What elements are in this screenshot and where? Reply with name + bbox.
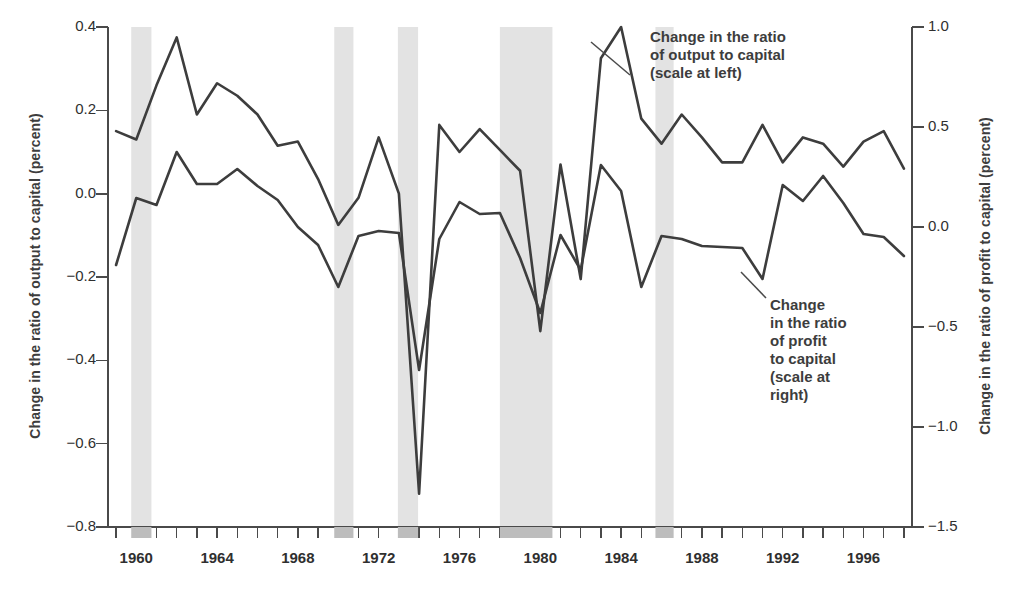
recession-band-1 [334, 27, 353, 527]
annotation-profit: Change in the ratio of profit to capital… [770, 296, 847, 404]
recession-band-4 [655, 27, 673, 527]
x-axis-band-stub-3 [500, 527, 553, 538]
y-tick-label-right-5: −1.5 [928, 517, 988, 534]
leader-line-0 [591, 42, 630, 75]
y-tick-label-left-6: −0.8 [28, 517, 96, 534]
x-tick-label-1960: 1960 [96, 549, 176, 566]
x-axis-band-stub-1 [334, 527, 353, 538]
x-tick-label-1992: 1992 [743, 549, 823, 566]
y-tick-label-right-1: 0.5 [928, 117, 988, 134]
x-axis-band-stub-4 [655, 527, 673, 538]
chart-container: Change in the ratio of output to capital… [0, 0, 1016, 593]
x-tick-label-1972: 1972 [339, 549, 419, 566]
y-tick-label-right-0: 1.0 [928, 17, 988, 34]
plot-svg [0, 0, 1016, 593]
x-tick-label-1988: 1988 [662, 549, 742, 566]
y-tick-label-left-3: −0.2 [28, 267, 96, 284]
recession-bands-layer [131, 27, 673, 527]
y-tick-label-left-0: 0.4 [28, 17, 96, 34]
y-tick-label-right-3: −0.5 [928, 317, 988, 334]
x-tick-label-1976: 1976 [419, 549, 499, 566]
y-tick-label-right-2: 0.0 [928, 217, 988, 234]
y-tick-label-left-4: −0.4 [28, 350, 96, 367]
x-tick-label-1980: 1980 [500, 549, 580, 566]
x-axis-band-stub-0 [131, 527, 151, 538]
x-tick-label-1964: 1964 [177, 549, 257, 566]
x-tick-label-1996: 1996 [824, 549, 904, 566]
x-tick-label-1968: 1968 [258, 549, 338, 566]
y-tick-label-left-5: −0.6 [28, 434, 96, 451]
annotation-output: Change in the ratio of output to capital… [650, 28, 786, 82]
x-axis-band-stub-2 [398, 527, 418, 538]
y-tick-label-left-1: 0.2 [28, 100, 96, 117]
y-tick-label-right-4: −1.0 [928, 417, 988, 434]
recession-band-0 [131, 27, 151, 527]
y-tick-label-left-2: 0.0 [28, 184, 96, 201]
x-tick-label-1984: 1984 [581, 549, 661, 566]
